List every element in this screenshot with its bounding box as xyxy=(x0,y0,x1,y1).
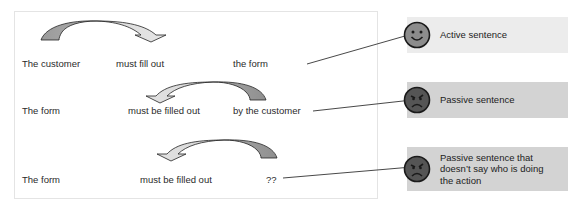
callout-label: Active sentence xyxy=(440,29,507,41)
row2-object: by the customer xyxy=(233,105,301,116)
connector-line xyxy=(313,100,412,111)
smiley-icon xyxy=(403,21,431,49)
frown-icon xyxy=(403,86,431,114)
arrow-right-icon xyxy=(41,21,166,42)
row1-subject: The customer xyxy=(22,58,80,69)
callout-label: Passive sentence xyxy=(440,94,514,106)
callout-label: Passive sentence that doesn’t say who is… xyxy=(440,152,558,187)
row2-subject: The form xyxy=(22,105,60,116)
frown-icon xyxy=(403,155,431,183)
callout-passive-no-agent: Passive sentence that doesn’t say who is… xyxy=(407,147,568,191)
row2-verb: must be filled out xyxy=(128,105,200,116)
arrow-left-icon xyxy=(146,82,266,103)
row1-object: the form xyxy=(233,58,268,69)
arrow-left-icon xyxy=(157,140,277,161)
row3-object: ?? xyxy=(266,174,277,185)
row3-subject: The form xyxy=(22,174,60,185)
connector-line xyxy=(283,167,412,178)
callout-passive-sentence: Passive sentence xyxy=(407,82,568,118)
row3-verb: must be filled out xyxy=(140,174,212,185)
row1-verb: must fill out xyxy=(116,58,164,69)
callout-active-sentence: Active sentence xyxy=(407,17,568,53)
connector-line xyxy=(307,34,412,64)
